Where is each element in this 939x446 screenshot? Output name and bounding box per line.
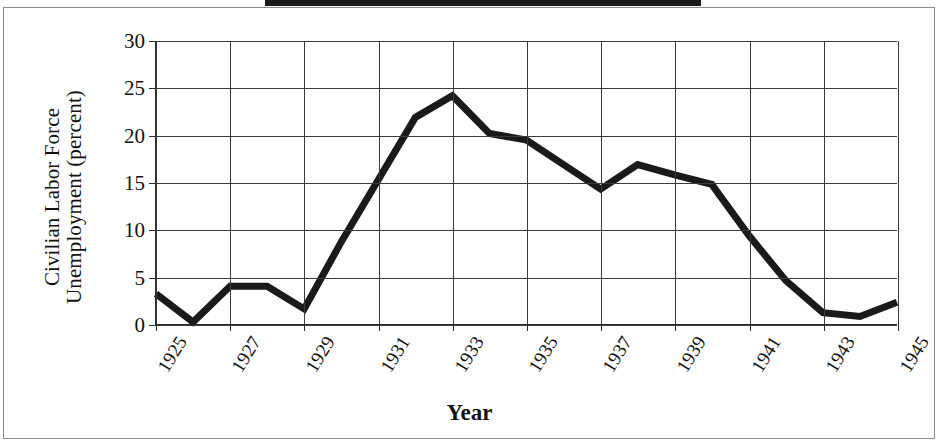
x-axis-tick — [675, 324, 676, 331]
gridline-vertical — [750, 41, 751, 324]
x-axis-tick-label: 1939 — [673, 333, 709, 375]
y-axis-tick-label: 20 — [124, 125, 145, 146]
gridline-vertical — [675, 41, 676, 324]
x-axis-tick-label: 1941 — [747, 333, 783, 375]
y-axis-tick-label: 5 — [135, 267, 146, 288]
x-axis-tick-label: 1929 — [302, 333, 338, 375]
y-axis-tick — [149, 136, 156, 137]
gridline-vertical — [230, 41, 231, 324]
x-axis-tick-label: 1943 — [822, 333, 858, 375]
x-axis-tick-label: 1927 — [228, 333, 264, 375]
x-axis-tick — [230, 324, 231, 331]
x-axis-tick-label: 1933 — [451, 333, 487, 375]
gridline-vertical — [379, 41, 380, 324]
x-axis-tick — [824, 324, 825, 331]
y-axis-tick — [149, 41, 156, 42]
gridline-vertical — [898, 41, 899, 324]
y-axis-title: Civilian Labor Force Unemployment (perce… — [28, 37, 98, 357]
gridline-vertical — [527, 41, 528, 324]
x-axis-tick — [527, 324, 528, 331]
y-axis-tick-label: 25 — [124, 78, 145, 99]
x-axis-tick — [750, 324, 751, 331]
y-axis-tick — [149, 325, 156, 326]
gridline-vertical — [453, 41, 454, 324]
y-axis-title-line-1: Civilian Labor Force — [41, 108, 63, 286]
y-axis-tick — [149, 88, 156, 89]
x-axis-tick-label: 1937 — [599, 333, 635, 375]
x-axis-tick — [601, 324, 602, 331]
x-axis-title: Year — [0, 400, 939, 426]
y-axis-tick — [149, 230, 156, 231]
gridline-vertical — [601, 41, 602, 324]
x-axis-tick-label: 1945 — [896, 333, 932, 375]
y-axis-tick — [149, 278, 156, 279]
gridline-vertical — [156, 41, 157, 324]
y-axis-tick-label: 15 — [124, 173, 145, 194]
gridline-vertical — [304, 41, 305, 324]
y-axis-tick — [149, 183, 156, 184]
y-axis-tick-label: 0 — [135, 315, 146, 336]
x-axis-tick — [453, 324, 454, 331]
unemployment-line-chart: Civilian Labor Force Unemployment (perce… — [0, 0, 939, 446]
x-axis-tick — [379, 324, 380, 331]
x-axis-tick-label: 1931 — [376, 333, 412, 375]
x-axis-tick — [304, 324, 305, 331]
y-axis-title-line-2: Unemployment (percent) — [63, 90, 85, 304]
plot-area: 0510152025301925192719291931193319351937… — [155, 41, 897, 325]
x-axis-tick — [156, 324, 157, 331]
y-axis-tick-label: 30 — [124, 31, 145, 52]
gridline-vertical — [824, 41, 825, 324]
x-axis-tick-label: 1935 — [525, 333, 561, 375]
x-axis-tick — [898, 324, 899, 331]
x-axis-tick-label: 1925 — [154, 333, 190, 375]
y-axis-tick-label: 10 — [124, 220, 145, 241]
